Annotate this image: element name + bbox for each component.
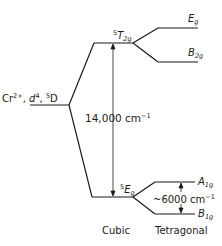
free-ion-label: Cr2+, d4, 5D	[2, 93, 58, 104]
tetragonal-splitting-label: ~6000 cm−1	[153, 194, 215, 205]
connector-to-eg-upper	[133, 28, 158, 43]
cubic-splitting-label: 14,000 cm−1	[85, 113, 151, 124]
b2g-label: B2g	[188, 48, 203, 60]
cubic-label: Cubic	[102, 226, 130, 236]
a1g-label: A1g	[198, 177, 213, 189]
connector-to-b1g	[133, 197, 155, 214]
connector-to-b2g	[133, 43, 158, 62]
b1g-label: B1g	[198, 209, 213, 221]
t2g-label: 5T2g	[113, 30, 132, 43]
eg-upper-label: Eg	[188, 14, 198, 26]
tetragonal-label: Tetragonal	[155, 226, 207, 236]
eg-label: 5Eg	[120, 184, 135, 197]
connector-to-a1g	[133, 182, 155, 197]
connector-to-t2g	[69, 43, 94, 105]
